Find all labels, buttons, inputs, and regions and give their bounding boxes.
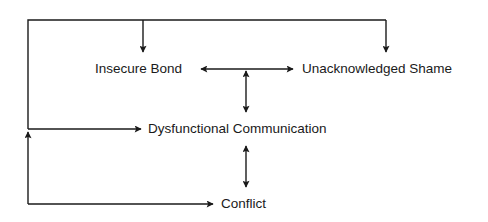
node-conflict: Conflict [221,196,266,212]
node-dysfunctional-communication: Dysfunctional Communication [148,121,327,137]
node-unacknowledged-shame: Unacknowledged Shame [302,61,452,77]
node-insecure-bond: Insecure Bond [95,61,182,77]
diagram-canvas: Insecure Bond Unacknowledged Shame Dysfu… [0,0,488,222]
connector-layer [0,0,488,222]
